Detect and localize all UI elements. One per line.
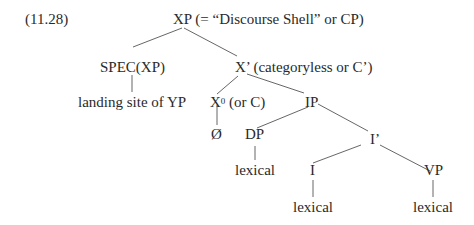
node-x0-superscript: 0 (221, 96, 226, 106)
node-ip: IP (305, 94, 318, 111)
node-landing-site: landing site of YP (78, 94, 186, 111)
node-empty: Ø (211, 126, 222, 143)
node-dp-lexical: lexical (235, 162, 275, 179)
node-dp: DP (245, 126, 264, 143)
node-i-lexical: lexical (293, 199, 333, 216)
tree-branches (0, 0, 474, 225)
node-x0: X0 (or C) (210, 94, 265, 111)
node-xp: XP (= “Discourse Shell” or CP) (173, 11, 364, 28)
node-i-bar: I’ (370, 131, 380, 148)
node-i: I (310, 162, 315, 179)
node-x0-base: X (210, 94, 221, 110)
node-x-bar: X’ (categoryless or C’) (235, 59, 373, 76)
node-spec-xp: SPEC(XP) (100, 59, 165, 76)
example-number: (11.28) (25, 11, 68, 28)
node-vp-lexical: lexical (413, 199, 453, 216)
node-vp: VP (424, 162, 443, 179)
node-x0-rest: (or C) (225, 94, 265, 110)
